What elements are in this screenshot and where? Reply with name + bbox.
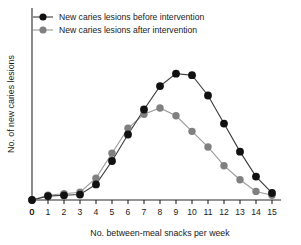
x-tick-label: 8 bbox=[158, 207, 163, 217]
legend-item-after: New caries lesions after intervention bbox=[33, 25, 197, 35]
data-point-before bbox=[60, 191, 68, 199]
x-tick-label: 2 bbox=[62, 207, 67, 217]
x-tick-label: 6 bbox=[126, 207, 131, 217]
x-tick-label: 12 bbox=[219, 207, 229, 217]
data-point-before bbox=[188, 71, 196, 79]
x-tick-label: 5 bbox=[110, 207, 115, 217]
y-axis-title: No. of new caries lesions bbox=[6, 55, 16, 153]
x-tick-label: 11 bbox=[204, 207, 213, 217]
caries-lesions-line-chart: New caries lesions before intervention N… bbox=[0, 0, 301, 245]
x-tick-label: 1 bbox=[46, 207, 51, 217]
data-point-before bbox=[108, 157, 116, 165]
data-point-before bbox=[156, 82, 164, 90]
data-point-before bbox=[76, 191, 84, 199]
data-point-after bbox=[220, 162, 227, 169]
legend-marker-before bbox=[39, 13, 46, 20]
data-point-before bbox=[268, 189, 276, 197]
x-axis-title: No. between-meal snacks per week bbox=[90, 228, 230, 238]
x-tick-label: 14 bbox=[251, 207, 261, 217]
x-tick-label: 9 bbox=[174, 207, 179, 217]
data-point-after bbox=[188, 128, 195, 135]
x-tick-label: 4 bbox=[94, 207, 99, 217]
x-tick-label: 3 bbox=[78, 207, 83, 217]
data-point-before bbox=[172, 70, 180, 78]
data-point-after bbox=[108, 150, 115, 157]
data-point-after bbox=[156, 104, 163, 111]
data-point-before bbox=[92, 181, 100, 189]
data-point-before bbox=[236, 148, 244, 156]
legend: New caries lesions before intervention N… bbox=[33, 12, 204, 35]
x-tick-label: 15 bbox=[267, 207, 277, 217]
x-tick-label: 10 bbox=[187, 207, 197, 217]
series-markers-before bbox=[28, 70, 276, 204]
chart-canvas: New caries lesions before intervention N… bbox=[0, 0, 301, 245]
series-line-before bbox=[32, 74, 272, 200]
data-point-before bbox=[220, 120, 228, 128]
data-point-before bbox=[204, 92, 212, 100]
series-line-after bbox=[32, 108, 272, 200]
y-axis-zero-label: 0 bbox=[30, 207, 35, 217]
data-point-before bbox=[124, 131, 132, 139]
legend-item-before: New caries lesions before intervention bbox=[33, 12, 204, 22]
legend-marker-after bbox=[39, 26, 46, 33]
x-tick-label: 13 bbox=[235, 207, 245, 217]
x-axis-ticks bbox=[32, 200, 272, 204]
data-point-before bbox=[44, 192, 52, 200]
plot-area: 0123456789101112131415 bbox=[28, 8, 281, 217]
x-tick-label: 7 bbox=[142, 207, 147, 217]
legend-label-before: New caries lesions before intervention bbox=[59, 12, 204, 22]
data-point-after bbox=[236, 176, 243, 183]
legend-label-after: New caries lesions after intervention bbox=[59, 25, 197, 35]
data-point-after bbox=[204, 143, 211, 150]
data-point-after bbox=[172, 112, 179, 119]
x-axis-tick-labels: 0123456789101112131415 bbox=[30, 207, 277, 217]
data-point-before bbox=[252, 173, 260, 181]
data-point-before bbox=[28, 196, 36, 204]
data-point-after bbox=[252, 188, 259, 195]
data-point-before bbox=[140, 106, 148, 114]
